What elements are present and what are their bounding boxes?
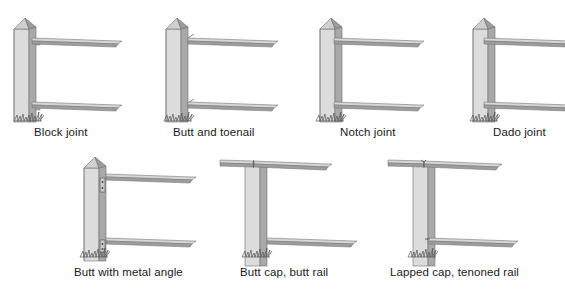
panel-butt-with-metal-angle: Butt with metal angle: [60, 150, 220, 291]
panel-label: Notch joint: [340, 126, 395, 138]
dado-joint-illustration: [420, 0, 565, 145]
panel-butt-cap-butt-rail: Butt cap, butt rail: [220, 150, 380, 291]
block-joint-illustration: [0, 0, 140, 145]
panel-block-joint: Block joint: [0, 0, 140, 145]
panel-label: Dado joint: [493, 126, 546, 138]
panel-notch-joint: Notch joint: [290, 0, 430, 145]
butt-and-toenail-illustration: [140, 0, 290, 145]
notch-joint-illustration: [290, 0, 430, 145]
panel-label: Lapped cap, tenoned rail: [390, 266, 519, 278]
panel-label: Butt cap, butt rail: [240, 266, 328, 278]
panel-label: Block joint: [34, 126, 88, 138]
panel-butt-and-toenail: Butt and toenail: [140, 0, 290, 145]
panel-label: Butt and toenail: [173, 126, 255, 138]
panel-dado-joint: Dado joint: [420, 0, 565, 145]
panel-label: Butt with metal angle: [74, 266, 183, 278]
panel-lapped-cap-tenoned-rail: Lapped cap, tenoned rail: [370, 150, 545, 291]
